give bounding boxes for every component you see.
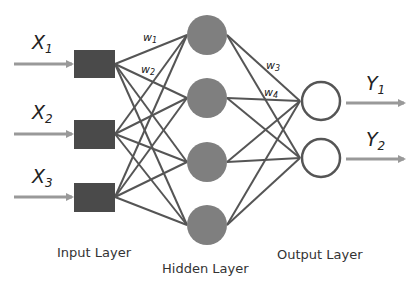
- output-node-2: [302, 139, 340, 177]
- var-letter: X: [32, 31, 45, 53]
- output-label-y1: Y1: [366, 72, 385, 97]
- weight-label-w3: w3: [266, 59, 280, 73]
- weight-subscript: 2: [150, 68, 155, 77]
- input-node-1: [74, 50, 115, 78]
- input-label-x2: X2: [32, 101, 53, 126]
- hidden-node-1: [187, 15, 227, 55]
- weight-letter: w: [264, 86, 273, 99]
- var-subscript: 2: [45, 112, 53, 126]
- weight-label-w4: w4: [264, 86, 278, 100]
- hidden-node-3: [187, 142, 227, 182]
- input-node-3: [74, 183, 115, 212]
- weight-letter: w: [143, 31, 152, 44]
- weight-label-w1: w1: [143, 31, 157, 45]
- weight-label-w2: w2: [141, 63, 155, 77]
- var-letter: Y: [366, 128, 378, 150]
- var-subscript: 1: [45, 42, 53, 56]
- var-letter: X: [32, 165, 45, 187]
- output-label-y2: Y2: [366, 128, 385, 153]
- output-node-1: [302, 82, 340, 120]
- input-node-2: [74, 120, 115, 149]
- var-letter: Y: [366, 72, 378, 94]
- var-subscript: 2: [378, 139, 386, 153]
- hidden-layer-label: Hidden Layer: [162, 261, 249, 276]
- weight-subscript: 1: [152, 36, 157, 45]
- weight-letter: w: [266, 59, 275, 72]
- weight-subscript: 3: [275, 64, 280, 73]
- input-layer-label: Input Layer: [57, 245, 131, 260]
- var-letter: X: [32, 101, 45, 123]
- hidden-node-4: [187, 205, 227, 245]
- weight-subscript: 4: [273, 91, 278, 100]
- hidden-node-2: [187, 78, 227, 118]
- var-subscript: 3: [45, 176, 53, 190]
- input-layer-nodes: [74, 50, 115, 212]
- hidden-layer-nodes: [187, 15, 227, 245]
- weight-letter: w: [141, 63, 150, 76]
- output-layer-nodes: [302, 82, 340, 177]
- input-label-x1: X1: [32, 31, 53, 56]
- input-label-x3: X3: [32, 165, 53, 190]
- var-subscript: 1: [378, 83, 386, 97]
- output-layer-label: Output Layer: [277, 247, 363, 262]
- hidden-output-edges: [227, 35, 300, 225]
